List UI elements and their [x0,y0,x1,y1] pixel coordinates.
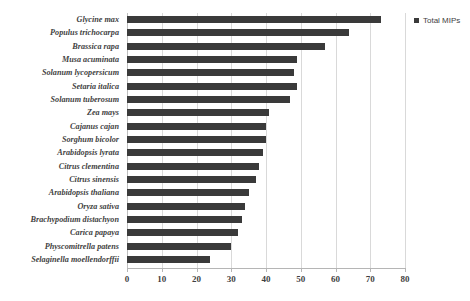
bar[interactable] [127,123,266,130]
plot-area [127,13,405,268]
tick-mark [162,268,163,272]
x-axis-tick-label: 80 [385,274,425,284]
y-axis-label: Sorghum bicolor [0,133,123,146]
bar-row [127,186,405,199]
tick-mark [231,268,232,272]
bar-row [127,53,405,66]
tick-mark [127,268,128,272]
bar-row [127,106,405,119]
gridline-80 [405,13,406,268]
bar-row [127,40,405,53]
bar-row [127,240,405,253]
y-axis-label: Glycine max [0,13,123,26]
y-axis-label: Solanum tuberosum [0,93,123,106]
bar-row [127,13,405,26]
bar[interactable] [127,83,297,90]
bar-row [127,93,405,106]
y-axis-label: Selaginella moellendorffii [0,253,123,266]
y-axis-label: Musa acuminata [0,53,123,66]
bar-row [127,66,405,79]
y-axis-label: Solanum lycopersicum [0,66,123,79]
y-axis-label: Arabidopsis thaliana [0,186,123,199]
y-axis-label: Cajanus cajan [0,120,123,133]
bar-row [127,253,405,266]
tick-mark [301,268,302,272]
tick-mark [405,268,406,272]
bar-row [127,173,405,186]
tick-mark [370,268,371,272]
chart-legend: Total MIPs [414,16,460,25]
y-axis-label: Citrus clementina [0,160,123,173]
bar-row [127,26,405,39]
bar[interactable] [127,109,269,116]
bar-rows [127,13,405,268]
legend-label: Total MIPs [423,16,460,25]
bar[interactable] [127,203,245,210]
bar[interactable] [127,69,294,76]
bar[interactable] [127,136,266,143]
tick-mark [197,268,198,272]
tick-mark [266,268,267,272]
bar[interactable] [127,189,249,196]
tick-mark [336,268,337,272]
bar[interactable] [127,163,259,170]
bar-row [127,146,405,159]
bar-row [127,160,405,173]
y-axis-label: Oryza sativa [0,200,123,213]
bar[interactable] [127,256,210,263]
bar-row [127,200,405,213]
y-axis-label: Brachypodium distachyon [0,213,123,226]
bar[interactable] [127,176,256,183]
bar[interactable] [127,56,297,63]
bar[interactable] [127,216,242,223]
bar[interactable] [127,229,238,236]
bar-chart: Glycine maxPopulus trichocarpaBrassica r… [0,0,470,301]
bar-row [127,213,405,226]
y-axis-label: Populus trichocarpa [0,26,123,39]
bar[interactable] [127,149,263,156]
bar[interactable] [127,29,349,36]
bar-row [127,133,405,146]
y-axis-label: Brassica rapa [0,40,123,53]
bar[interactable] [127,243,231,250]
y-axis-label: Citrus sinensis [0,173,123,186]
bar-row [127,226,405,239]
bar-row [127,120,405,133]
bar[interactable] [127,16,381,23]
y-axis-category-labels: Glycine maxPopulus trichocarpaBrassica r… [0,13,123,268]
y-axis-label: Arabidopsis lyrata [0,146,123,159]
y-axis-label: Carica papaya [0,226,123,239]
bar[interactable] [127,96,290,103]
y-axis-label: Setaria italica [0,80,123,93]
legend-square-marker [414,18,419,23]
bar-row [127,80,405,93]
y-axis-label: Zea mays [0,106,123,119]
bar[interactable] [127,43,325,50]
y-axis-label: Physcomitrella patens [0,240,123,253]
